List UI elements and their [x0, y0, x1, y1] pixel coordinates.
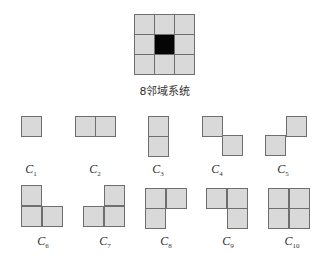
clique-cell [21, 206, 42, 227]
clique-label-c5: C5 [277, 162, 289, 178]
clique-cell [166, 188, 187, 209]
clique-cell [148, 116, 169, 137]
clique-cell [148, 136, 169, 157]
grid-cell [174, 34, 195, 55]
clique-cell [145, 188, 166, 209]
clique-cell [145, 208, 166, 229]
clique-cell [42, 206, 63, 227]
clique-cell [289, 208, 310, 229]
clique-label-c1: C1 [25, 162, 37, 178]
clique-label-c4: C4 [211, 162, 223, 178]
clique-cell [104, 185, 125, 206]
clique-cell [268, 208, 289, 229]
clique-label-c3: C3 [152, 162, 164, 178]
grid-cell [174, 14, 195, 35]
clique-label-c7: C7 [99, 234, 111, 250]
neighborhood-grid [134, 14, 196, 76]
clique-cell [289, 188, 310, 209]
clique-cell [206, 188, 227, 209]
grid-cell [134, 54, 155, 75]
center-pixel [154, 34, 175, 55]
grid-cell [134, 14, 155, 35]
clique-label-c6: C6 [37, 234, 49, 250]
clique-cell [222, 135, 243, 156]
grid-cell [134, 34, 155, 55]
clique-cell [104, 206, 125, 227]
clique-label-c8: C8 [160, 234, 172, 250]
grid-cell [154, 54, 175, 75]
clique-cell [227, 188, 248, 209]
clique-cell [83, 206, 104, 227]
clique-label-c10: C10 [284, 234, 299, 250]
clique-cell [75, 116, 96, 137]
clique-label-c2: C2 [89, 162, 101, 178]
clique-cell [21, 185, 42, 206]
grid-cell [174, 54, 195, 75]
neighborhood-caption: 8邻域系统 [140, 82, 191, 98]
clique-cell [202, 116, 223, 137]
clique-cell [21, 116, 42, 137]
clique-cell [268, 188, 289, 209]
grid-cell [154, 14, 175, 35]
clique-cell [265, 135, 286, 156]
clique-cell [227, 208, 248, 229]
clique-cell [286, 116, 307, 137]
clique-label-c9: C9 [222, 234, 234, 250]
clique-cell [95, 116, 116, 137]
